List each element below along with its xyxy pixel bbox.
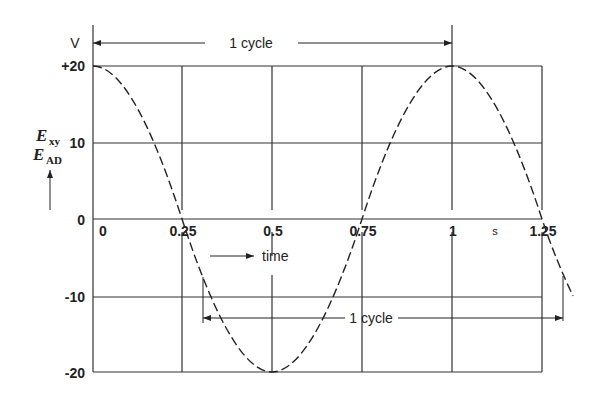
e-xy-subscript: xy [49,135,61,147]
y-tick-10: 10 [69,135,85,151]
top-cycle-annotation: 1 cycle [93,35,452,51]
e-ad-subscript: AD [46,154,62,166]
y-unit-label: V [70,35,80,51]
x-tick-0-75: 0.75 [349,223,376,239]
x-tick-0: 0 [99,223,107,239]
y-tick-20: +20 [61,58,85,74]
y-tick-0: 0 [77,212,85,228]
e-ad-symbol: E [32,145,44,164]
bottom-cycle-label: 1 cycle [349,310,393,326]
y-tick-neg10: -10 [65,289,85,305]
x-tick-0-5: 0.5 [263,223,283,239]
bottom-cycle-annotation: 1 cycle [203,276,563,326]
y-tick-neg20: -20 [65,365,85,381]
y-axis-symbol: E xy E AD [32,126,62,210]
e-xy-symbol: E [35,126,47,145]
x-unit-label: s [492,225,498,237]
x-tick-1: 1 [449,223,457,239]
time-direction: time [210,248,289,264]
x-tick-1-25: 1.25 [529,223,556,239]
top-cycle-label: 1 cycle [229,35,273,51]
time-label: time [262,248,289,264]
waveform-chart: 1 cycle 1 cycle V +20 10 0 -10 -20 E xy … [0,0,597,402]
x-tick-0-25: 0.25 [169,223,196,239]
